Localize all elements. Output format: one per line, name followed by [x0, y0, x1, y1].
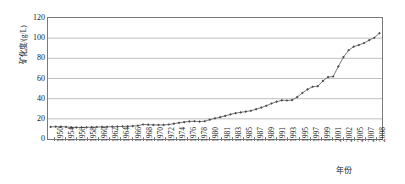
data-point — [270, 102, 273, 105]
x-axis-tick-label: 1980 — [212, 127, 220, 142]
data-point — [167, 123, 170, 126]
x-axis-tick-label: 1954 — [68, 127, 76, 142]
data-point — [275, 100, 278, 103]
x-axis-tick-label: 1997 — [313, 127, 321, 142]
x-axis-tick-mark — [365, 137, 366, 141]
y-axis-tick-label: 20 — [21, 115, 45, 123]
x-axis-tick-mark — [243, 137, 244, 141]
data-point — [214, 117, 217, 120]
data-point — [219, 116, 222, 119]
y-axis-tick-label: 100 — [21, 34, 45, 42]
x-axis-tick-label: 1978 — [201, 127, 209, 142]
x-axis-tick-mark — [54, 137, 55, 141]
x-axis-tick-mark — [287, 137, 288, 141]
x-axis-tick-mark — [65, 137, 66, 141]
x-axis-tick-label: 2008 — [379, 127, 387, 142]
x-axis-tick-label: 1987 — [257, 127, 265, 142]
x-axis-tick-label: 1972 — [168, 127, 176, 142]
x-axis-tick-label: 1950 — [57, 127, 65, 142]
x-axis-tick-mark — [299, 137, 300, 141]
x-axis-tick-label: 1991 — [279, 127, 287, 142]
x-axis-tick-mark — [165, 137, 166, 141]
x-axis-tick-mark — [98, 137, 99, 141]
data-point — [239, 111, 242, 114]
data-point — [286, 99, 289, 102]
gridlines — [48, 38, 382, 119]
x-axis-tick-mark — [221, 137, 222, 141]
x-axis-tick-mark — [187, 137, 188, 141]
x-axis-tick-mark — [332, 137, 333, 141]
data-point — [234, 112, 237, 115]
data-point — [162, 124, 165, 127]
x-axis-tick-mark — [109, 137, 110, 141]
data-point — [358, 44, 361, 47]
data-point — [188, 120, 191, 123]
x-axis-title: 年份 — [336, 166, 352, 175]
x-axis-tick-label: 1968 — [146, 127, 154, 142]
x-axis-tick-mark — [354, 137, 355, 141]
data-point — [224, 114, 227, 117]
x-axis-tick-mark — [176, 137, 177, 141]
x-axis-tick-label: 2002 — [346, 127, 354, 142]
x-axis-tick-label: 1960 — [101, 127, 109, 142]
data-point — [311, 85, 314, 88]
data-point-markers — [49, 32, 381, 129]
data-point — [203, 120, 206, 123]
x-axis-tick-mark — [154, 137, 155, 141]
data-point — [198, 120, 201, 123]
series-line-chart — [48, 18, 382, 139]
x-axis-tick-mark — [198, 137, 199, 141]
x-axis-tick-label: 1958 — [90, 127, 98, 142]
x-axis-tick-mark — [376, 137, 377, 141]
x-axis-tick-mark — [87, 137, 88, 141]
x-axis-tick-label: 1995 — [302, 127, 310, 142]
x-axis-tick-label: 1993 — [290, 127, 298, 142]
data-line — [51, 33, 380, 127]
data-point — [49, 126, 52, 129]
x-axis-tick-label: 1983 — [235, 127, 243, 142]
data-point — [152, 124, 155, 127]
x-axis-tick-label: 1962 — [112, 127, 120, 142]
x-axis-tick-label: 1999 — [324, 127, 332, 142]
x-axis-tick-label: 1966 — [135, 127, 143, 142]
x-axis-tick-label: 2001 — [335, 127, 343, 142]
x-axis-tick-label: 1964 — [123, 127, 131, 142]
x-axis-tick-label: 1974 — [179, 127, 187, 142]
x-axis-tick-mark — [310, 137, 311, 141]
data-point — [280, 99, 283, 102]
y-axis-tick-labels: 020406080100120 — [20, 0, 45, 184]
x-axis-tick-label: 1981 — [224, 127, 232, 142]
x-axis-tick-label: 1976 — [190, 127, 198, 142]
x-axis-tick-mark — [343, 137, 344, 141]
data-point — [178, 122, 181, 125]
data-point — [183, 121, 186, 124]
x-axis-tick-label: 1989 — [268, 127, 276, 142]
y-axis-tick-label: 120 — [21, 14, 45, 22]
x-axis-tick-mark — [321, 137, 322, 141]
x-axis-tick-mark — [265, 137, 266, 141]
x-axis-tick-mark — [232, 137, 233, 141]
data-point — [173, 122, 176, 125]
y-axis-tick-label: 80 — [21, 54, 45, 62]
x-axis-tick-mark — [120, 137, 121, 141]
data-point — [142, 123, 145, 126]
x-axis-tick-label: 1985 — [246, 127, 254, 142]
x-axis-tick-mark — [76, 137, 77, 141]
data-point — [260, 106, 263, 109]
data-point — [255, 108, 258, 111]
y-axis-tick-label: 0 — [21, 135, 45, 143]
data-point — [157, 124, 160, 127]
chart-figure: 矿化度/(g/L) 020406080100120 19501954195619… — [0, 0, 405, 184]
data-point — [147, 123, 150, 126]
data-point — [229, 113, 232, 116]
x-axis-tick-mark — [254, 137, 255, 141]
y-axis-tick-label: 60 — [21, 75, 45, 83]
x-axis-tick-label: 2007 — [368, 127, 376, 142]
y-axis-tick-label: 40 — [21, 95, 45, 103]
data-point — [332, 75, 335, 78]
plot-area — [47, 17, 383, 140]
x-axis-tick-mark — [209, 137, 210, 141]
x-axis-tick-mark — [143, 137, 144, 141]
data-point — [193, 120, 196, 123]
x-axis-tick-label: 1970 — [157, 127, 165, 142]
